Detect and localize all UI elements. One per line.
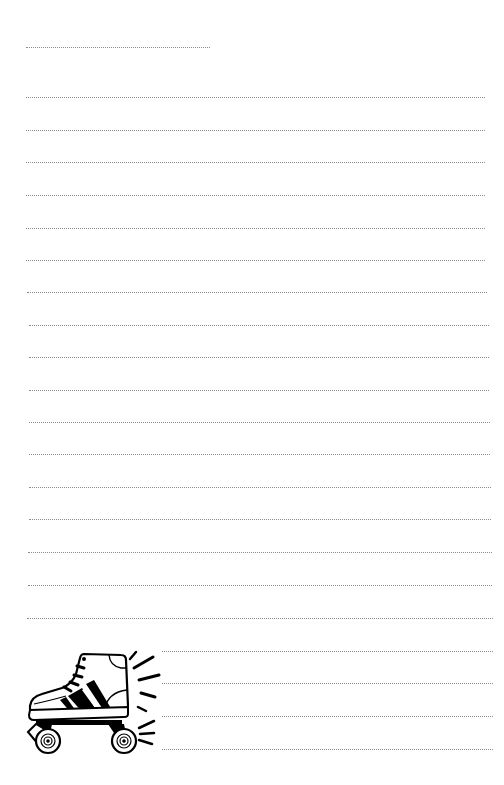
ruled-line	[29, 357, 489, 358]
ruled-line	[29, 422, 490, 423]
ruled-line	[29, 454, 490, 455]
ruled-line	[29, 325, 489, 326]
ruled-line	[26, 130, 485, 131]
ruled-line	[27, 292, 487, 293]
ruled-line	[26, 162, 485, 163]
ruled-line	[27, 618, 493, 619]
ruled-line	[26, 228, 485, 229]
ruled-line	[29, 519, 491, 520]
title-line	[26, 47, 210, 48]
ruled-line	[26, 97, 485, 98]
ruled-line	[29, 487, 491, 488]
ruled-line	[28, 585, 492, 586]
ruled-line	[26, 260, 485, 261]
ruled-line	[26, 195, 485, 196]
roller-skate-icon	[22, 644, 162, 756]
lined-paper-page	[0, 0, 504, 785]
ruled-line	[29, 390, 489, 391]
ruled-line	[28, 552, 492, 553]
